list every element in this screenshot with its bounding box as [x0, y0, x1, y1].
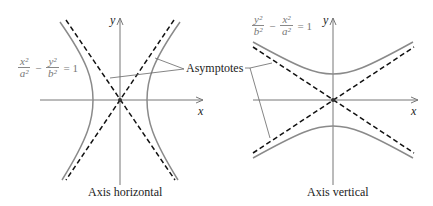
eq-rhs: = 1	[298, 20, 312, 32]
eq-rhs: = 1	[64, 62, 78, 74]
hyperbola-diagrams	[0, 0, 433, 206]
eq-term: a²	[282, 26, 291, 37]
left-x-axis-label: x	[198, 104, 203, 119]
right-x-axis-label: x	[411, 104, 416, 119]
eq-operator: −	[35, 62, 41, 74]
eq-operator: −	[269, 20, 275, 32]
left-caption: Axis horizontal	[88, 185, 162, 200]
left-origin-point	[118, 98, 122, 102]
eq-term: b²	[48, 68, 57, 79]
right-caption: Axis vertical	[307, 185, 369, 200]
right-equation: y²b² − x²a² = 1	[250, 14, 315, 37]
eq-term: a²	[20, 68, 29, 79]
right-origin-point	[331, 98, 335, 102]
left-equation: x²a² − y²b² = 1	[16, 56, 81, 79]
left-y-axis-label: y	[110, 13, 115, 28]
right-y-axis-label: y	[323, 13, 328, 28]
asymptotes-label: Asymptotes	[186, 61, 243, 76]
eq-term: b²	[254, 26, 263, 37]
